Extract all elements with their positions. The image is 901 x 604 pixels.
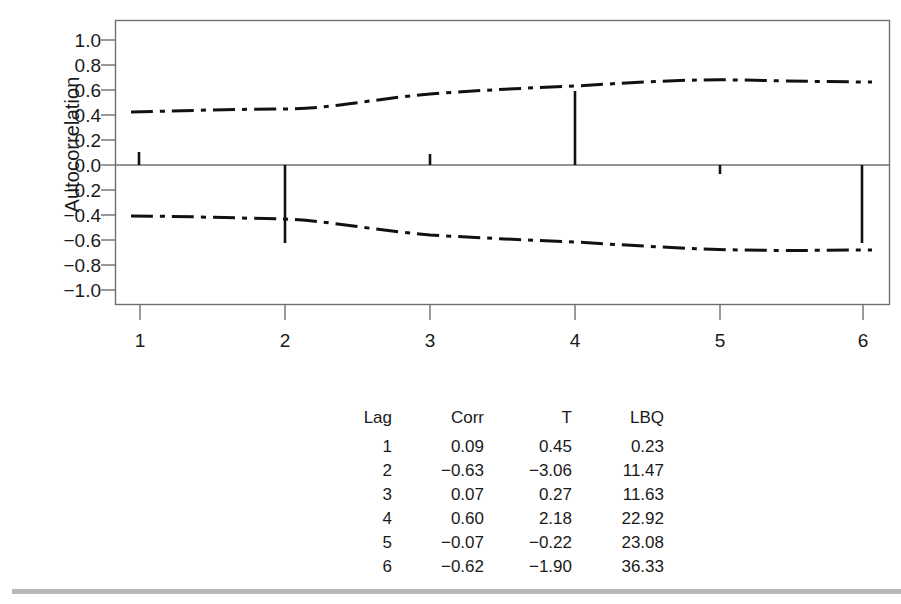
cell-t: −1.90 xyxy=(484,555,572,579)
y-tick-label: 0.2 xyxy=(37,131,101,150)
y-tick-label: −0.2 xyxy=(37,181,101,200)
cell-t: 2.18 xyxy=(484,507,572,531)
cell-lbq: 22.92 xyxy=(572,507,664,531)
column-header-corr: Corr xyxy=(392,408,484,435)
cell-lag: 3 xyxy=(330,483,392,507)
plot-frame xyxy=(116,21,890,305)
table-row: 6 −0.62 −1.90 36.33 xyxy=(330,555,664,579)
cell-t: 0.27 xyxy=(484,483,572,507)
table-row: 4 0.60 2.18 22.92 xyxy=(330,507,664,531)
cell-t: −3.06 xyxy=(484,459,572,483)
table-row: 2 −0.63 −3.06 11.47 xyxy=(330,459,664,483)
cell-lbq: 11.63 xyxy=(572,483,664,507)
y-tick-label: −0.8 xyxy=(37,256,101,275)
x-tick-label: 2 xyxy=(265,331,305,350)
x-tick-label: 5 xyxy=(700,331,740,350)
cell-t: 0.45 xyxy=(484,435,572,459)
cell-corr: 0.07 xyxy=(392,483,484,507)
cell-t: −0.22 xyxy=(484,531,572,555)
cell-lag: 6 xyxy=(330,555,392,579)
cell-corr: −0.62 xyxy=(392,555,484,579)
y-tick-label: −1.0 xyxy=(37,281,101,300)
cell-lag: 4 xyxy=(330,507,392,531)
x-tick-label: 3 xyxy=(410,331,450,350)
y-tick-label: 0.8 xyxy=(37,56,101,75)
cell-lag: 1 xyxy=(330,435,392,459)
y-tick-label: 0.4 xyxy=(37,106,101,125)
autocorrelation-figure: Autocorrelation 1.0 0.8 0.6 0.4 0.2 0.0 … xyxy=(0,0,901,604)
y-tick-label: −0.4 xyxy=(37,206,101,225)
cell-lag: 5 xyxy=(330,531,392,555)
x-tick-label: 6 xyxy=(843,331,883,350)
table-header-row: Lag Corr T LBQ xyxy=(330,408,664,435)
cell-lbq: 11.47 xyxy=(572,459,664,483)
cell-corr: −0.63 xyxy=(392,459,484,483)
x-tick-label: 4 xyxy=(555,331,595,350)
cell-lbq: 0.23 xyxy=(572,435,664,459)
upper-significance-band xyxy=(131,80,872,112)
y-tick-marks xyxy=(101,40,115,290)
lower-significance-band xyxy=(131,216,872,250)
acf-statistics-table: Lag Corr T LBQ 1 0.09 0.45 0.23 2 −0.63 … xyxy=(330,408,664,579)
y-tick-label: 0.6 xyxy=(37,81,101,100)
cell-lbq: 23.08 xyxy=(572,531,664,555)
y-tick-labels: 1.0 0.8 0.6 0.4 0.2 0.0 −0.2 −0.4 −0.6 −… xyxy=(0,0,101,320)
cell-lbq: 36.33 xyxy=(572,555,664,579)
table-row: 1 0.09 0.45 0.23 xyxy=(330,435,664,459)
cell-corr: −0.07 xyxy=(392,531,484,555)
y-tick-label: 1.0 xyxy=(37,31,101,50)
bottom-divider xyxy=(12,589,901,594)
column-header-lbq: LBQ xyxy=(572,408,664,435)
y-tick-label: 0.0 xyxy=(37,156,101,175)
x-tick-marks xyxy=(140,305,863,320)
cell-corr: 0.60 xyxy=(392,507,484,531)
table-row: 3 0.07 0.27 11.63 xyxy=(330,483,664,507)
x-tick-label: 1 xyxy=(120,331,160,350)
acf-spikes xyxy=(139,91,862,243)
y-tick-label: −0.6 xyxy=(37,231,101,250)
table-row: 5 −0.07 −0.22 23.08 xyxy=(330,531,664,555)
column-header-lag: Lag xyxy=(330,408,392,435)
column-header-t: T xyxy=(484,408,572,435)
cell-corr: 0.09 xyxy=(392,435,484,459)
cell-lag: 2 xyxy=(330,459,392,483)
